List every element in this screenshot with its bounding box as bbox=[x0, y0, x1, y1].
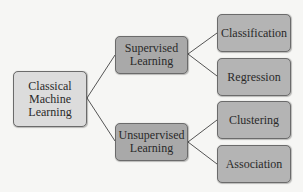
node-supervised-learning: Supervised Learning bbox=[115, 36, 188, 74]
label-line: Classical bbox=[28, 80, 71, 93]
connector-unsupervised-association bbox=[188, 142, 217, 164]
connector-supervised-regression bbox=[188, 54, 217, 76]
node-classification: Classification bbox=[217, 14, 291, 52]
node-classical-machine-learning: Classical Machine Learning bbox=[13, 71, 87, 127]
node-label: Classical Machine Learning bbox=[28, 80, 71, 119]
node-association: Association bbox=[217, 145, 291, 183]
node-clustering: Clustering bbox=[217, 101, 291, 139]
node-label: Association bbox=[226, 158, 283, 171]
connector-root-supervised bbox=[87, 55, 115, 98]
node-label: Unsupervised Learning bbox=[119, 129, 185, 155]
connector-unsupervised-clustering bbox=[188, 120, 217, 142]
node-label: Regression bbox=[227, 71, 280, 84]
connector-supervised-classification bbox=[188, 33, 217, 54]
connector-root-unsupervised bbox=[87, 98, 115, 141]
node-label: Supervised Learning bbox=[125, 42, 178, 68]
node-label: Classification bbox=[221, 27, 287, 40]
node-unsupervised-learning: Unsupervised Learning bbox=[115, 123, 188, 161]
diagram-canvas: Classical Machine Learning Supervised Le… bbox=[0, 0, 303, 192]
label-line: Machine bbox=[28, 93, 71, 106]
label-line: Learning bbox=[28, 106, 71, 119]
label-line: Learning bbox=[125, 55, 178, 68]
node-label: Clustering bbox=[229, 114, 279, 127]
label-line: Learning bbox=[119, 142, 185, 155]
node-regression: Regression bbox=[217, 58, 291, 96]
